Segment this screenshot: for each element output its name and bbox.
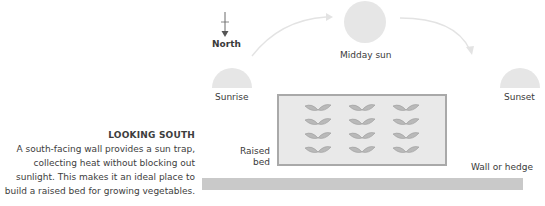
wall-label: Wall or hedge <box>471 162 533 172</box>
north-label: North <box>212 39 241 49</box>
wall-or-hedge <box>202 178 523 190</box>
midday-to-sunset-arc <box>400 18 470 50</box>
raised-bed-label: Raised bed <box>240 146 270 168</box>
raised-bed-label-line2: bed <box>240 157 270 168</box>
arc-arrowhead-icon <box>326 13 333 21</box>
raised-bed-label-line1: Raised <box>240 146 270 157</box>
caption-line: build a raised bed for growing vegetable… <box>0 184 195 198</box>
caption-line: sunlight. This makes it an ideal place t… <box>0 170 195 184</box>
caption: LOOKING SOUTH A south-facing wall provid… <box>0 128 195 198</box>
sunrise-label: Sunrise <box>215 92 249 102</box>
sunrise-to-midday-arc <box>252 17 326 56</box>
midday-sun-icon <box>344 1 386 43</box>
caption-line: A south-facing wall provides a sun trap, <box>0 142 195 156</box>
sunset-sun-icon <box>500 68 540 88</box>
raised-bed <box>278 95 446 165</box>
sunrise-sun-icon <box>212 68 252 88</box>
midday-sun-label: Midday sun <box>340 50 392 60</box>
sunset-label: Sunset <box>504 92 535 102</box>
caption-title: LOOKING SOUTH <box>0 128 195 142</box>
caption-line: collecting heat without blocking out <box>0 156 195 170</box>
north-arrow-icon <box>221 12 229 37</box>
arc-arrowhead-icon <box>466 46 474 55</box>
